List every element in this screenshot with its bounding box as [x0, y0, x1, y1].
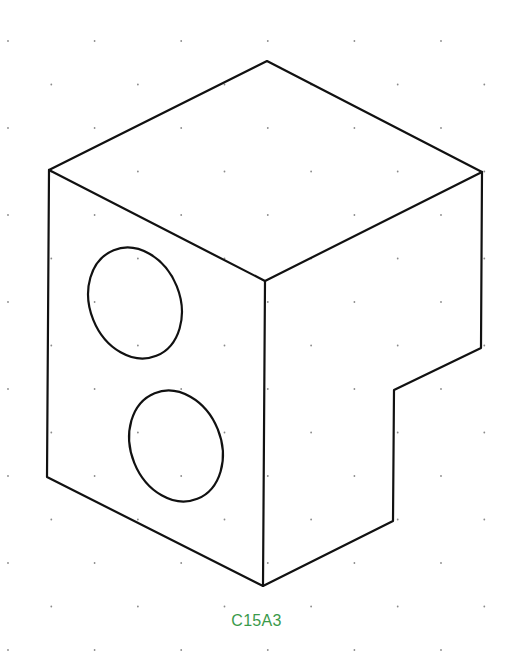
hole-ellipse: [113, 376, 239, 515]
grid-dot: [267, 649, 269, 651]
grid-dot: [137, 84, 139, 86]
grid-dot: [137, 606, 139, 608]
grid-dot: [440, 214, 442, 216]
grid-dot: [7, 301, 9, 303]
grid-dot: [440, 127, 442, 129]
grid-dot: [267, 562, 269, 564]
grid-dot: [267, 214, 269, 216]
grid-dot: [310, 432, 312, 434]
grid-dot: [224, 519, 226, 521]
grid-dot: [180, 562, 182, 564]
block-edge: [265, 172, 482, 281]
grid-dot: [7, 649, 9, 651]
grid-dot: [94, 214, 96, 216]
grid-dot: [180, 649, 182, 651]
grid-dot: [50, 519, 52, 521]
grid-dot: [180, 475, 182, 477]
grid-dot: [7, 388, 9, 390]
grid-dot: [180, 388, 182, 390]
grid-dot: [397, 171, 399, 173]
grid-dot: [440, 40, 442, 42]
grid-dot: [354, 127, 356, 129]
grid-dot: [440, 388, 442, 390]
l-shaped-block: [47, 61, 482, 586]
grid-dot: [483, 345, 485, 347]
grid-dot: [94, 127, 96, 129]
grid-dot: [94, 40, 96, 42]
grid-dot: [354, 301, 356, 303]
grid-dot: [50, 345, 52, 347]
isometric-dot-grid: [7, 40, 485, 651]
grid-dot: [354, 388, 356, 390]
grid-dot: [94, 388, 96, 390]
grid-dot: [483, 258, 485, 260]
grid-dot: [137, 345, 139, 347]
grid-dot: [397, 519, 399, 521]
grid-dot: [50, 258, 52, 260]
grid-dot: [224, 171, 226, 173]
grid-dot: [267, 127, 269, 129]
grid-dot: [94, 475, 96, 477]
block-edge: [263, 281, 265, 586]
grid-dot: [137, 432, 139, 434]
grid-dot: [310, 519, 312, 521]
grid-dot: [94, 562, 96, 564]
grid-dot: [7, 475, 9, 477]
grid-dot: [267, 475, 269, 477]
grid-dot: [440, 562, 442, 564]
grid-dot: [50, 606, 52, 608]
grid-dot: [483, 606, 485, 608]
grid-dot: [397, 432, 399, 434]
grid-dot: [397, 606, 399, 608]
grid-dot: [94, 301, 96, 303]
grid-dot: [440, 301, 442, 303]
figure-caption: C15A3: [0, 612, 513, 630]
block-edge: [49, 170, 265, 281]
grid-dot: [483, 519, 485, 521]
grid-dot: [397, 84, 399, 86]
grid-dot: [354, 649, 356, 651]
grid-dot: [483, 84, 485, 86]
grid-dot: [440, 649, 442, 651]
grid-dot: [483, 432, 485, 434]
grid-dot: [50, 432, 52, 434]
grid-dot: [180, 127, 182, 129]
grid-dot: [310, 171, 312, 173]
grid-dot: [354, 475, 356, 477]
circular-holes: [72, 233, 239, 515]
grid-dot: [137, 258, 139, 260]
grid-dot: [310, 345, 312, 347]
grid-dot: [397, 345, 399, 347]
grid-dot: [50, 84, 52, 86]
grid-dot: [267, 301, 269, 303]
grid-dot: [224, 606, 226, 608]
hole-ellipse: [72, 233, 198, 372]
grid-dot: [94, 649, 96, 651]
grid-dot: [397, 258, 399, 260]
grid-dot: [440, 475, 442, 477]
grid-dot: [310, 606, 312, 608]
grid-dot: [7, 562, 9, 564]
grid-dot: [483, 171, 485, 173]
isometric-drawing: [0, 0, 513, 670]
grid-dot: [354, 214, 356, 216]
grid-dot: [267, 388, 269, 390]
grid-dot: [137, 171, 139, 173]
grid-dot: [354, 562, 356, 564]
grid-dot: [7, 40, 9, 42]
grid-dot: [224, 432, 226, 434]
grid-dot: [354, 40, 356, 42]
grid-dot: [224, 345, 226, 347]
grid-dot: [180, 214, 182, 216]
grid-dot: [137, 519, 139, 521]
grid-dot: [180, 40, 182, 42]
grid-dot: [267, 40, 269, 42]
grid-dot: [224, 84, 226, 86]
grid-dot: [7, 214, 9, 216]
grid-dot: [7, 127, 9, 129]
